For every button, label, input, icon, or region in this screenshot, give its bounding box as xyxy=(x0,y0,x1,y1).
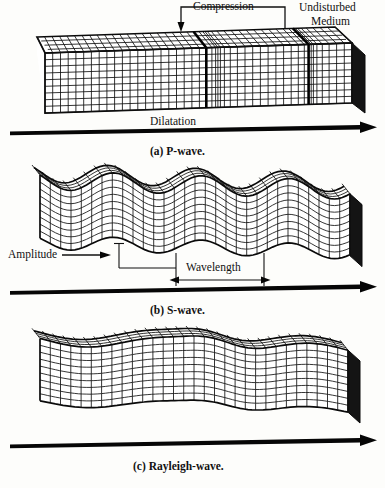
dilatation-label: Dilatation xyxy=(150,115,196,127)
undisturbed-medium-label-line2: Medium xyxy=(311,15,350,27)
panel-p-wave: Compression Undisturbed Medium xyxy=(0,0,385,160)
s-wave-medium-block xyxy=(32,163,362,267)
compression-label: Compression xyxy=(193,0,254,13)
wavelength-label: Wavelength xyxy=(186,261,241,274)
panel-s-wave: Amplitude Wavelength (b) S-wave. xyxy=(0,158,385,318)
amplitude-label: Amplitude xyxy=(8,248,57,261)
seismic-wave-figure: Compression Undisturbed Medium xyxy=(0,0,385,488)
undisturbed-medium-label-line1: Undisturbed xyxy=(299,1,356,13)
p-wave-end-face xyxy=(352,43,365,113)
panel-rayleigh-wave: (c) Rayleigh-wave. xyxy=(0,318,385,488)
panel-rayleigh-wave-caption: (c) Rayleigh-wave. xyxy=(133,460,224,473)
rayleigh-wave-end-face xyxy=(348,350,360,423)
panel-s-wave-caption: (b) S-wave. xyxy=(150,304,205,317)
panel-p-wave-caption: (a) P-wave. xyxy=(150,145,205,158)
rayleigh-wave-propagation-arrow xyxy=(10,435,377,449)
s-wave-end-face xyxy=(350,194,362,267)
s-wave-propagation-arrow xyxy=(10,281,377,295)
p-wave-medium-block xyxy=(37,27,365,113)
rayleigh-wave-medium-block xyxy=(32,326,360,423)
